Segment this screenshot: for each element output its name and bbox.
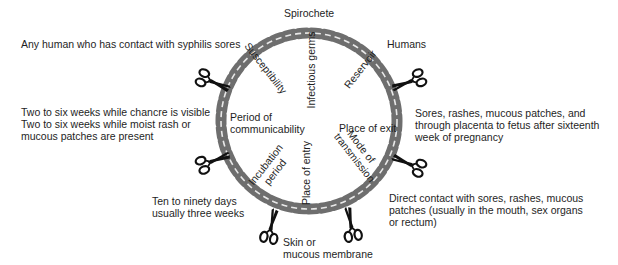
note-communicability-line3: mucous patches are present: [21, 130, 210, 142]
scissors-icon: [389, 68, 428, 97]
note-communicability-line2: Two to six weeks while moist rash or: [21, 118, 210, 130]
note-transmission-line2: patches (usually in the mouth, sex organ…: [389, 204, 583, 216]
label-period-of-communicability: Period of communicability: [230, 111, 305, 135]
note-place-of-exit: Sores, rashes, mucous patches, and throu…: [415, 107, 599, 143]
label-infectious-germs: Infectious germs: [305, 25, 317, 115]
note-entry-line2: mucous membrane: [283, 248, 373, 260]
note-reservoir: Humans: [387, 38, 426, 50]
note-exit-line3: week of pregnancy: [415, 131, 599, 143]
note-transmission-line3: or rectum): [389, 216, 583, 228]
title-spirochete: Spirochete: [284, 7, 334, 19]
note-exit-line1: Sores, rashes, mucous patches, and: [415, 107, 599, 119]
note-communicability-line1: Two to six weeks while chancre is visibl…: [21, 106, 210, 118]
note-communicability: Two to six weeks while chancre is visibl…: [21, 106, 210, 142]
note-susceptibility: Any human who has contact with syphilis …: [21, 38, 240, 50]
note-mode-of-transmission: Direct contact with sores, rashes, mucou…: [389, 192, 583, 228]
note-exit-line2: through placenta to fetus after sixteent…: [415, 119, 599, 131]
scissors-icon: [195, 68, 234, 97]
note-incubation: Ten to ninety days usually three weeks: [152, 195, 244, 219]
note-transmission-line1: Direct contact with sores, rashes, mucou…: [389, 192, 583, 204]
note-incubation-line1: Ten to ninety days: [152, 195, 244, 207]
scissors-icon: [389, 149, 428, 178]
label-place-of-entry: Place of entry: [300, 133, 312, 213]
scissors-icon: [195, 146, 234, 175]
scissors-icon: [259, 207, 283, 245]
label-communicability-line1: Period of: [230, 111, 305, 123]
label-communicability-line2: communicability: [230, 123, 305, 135]
note-place-of-entry: Skin or mucous membrane: [283, 236, 373, 260]
note-incubation-line2: usually three weeks: [152, 207, 244, 219]
note-entry-line1: Skin or: [283, 236, 373, 248]
